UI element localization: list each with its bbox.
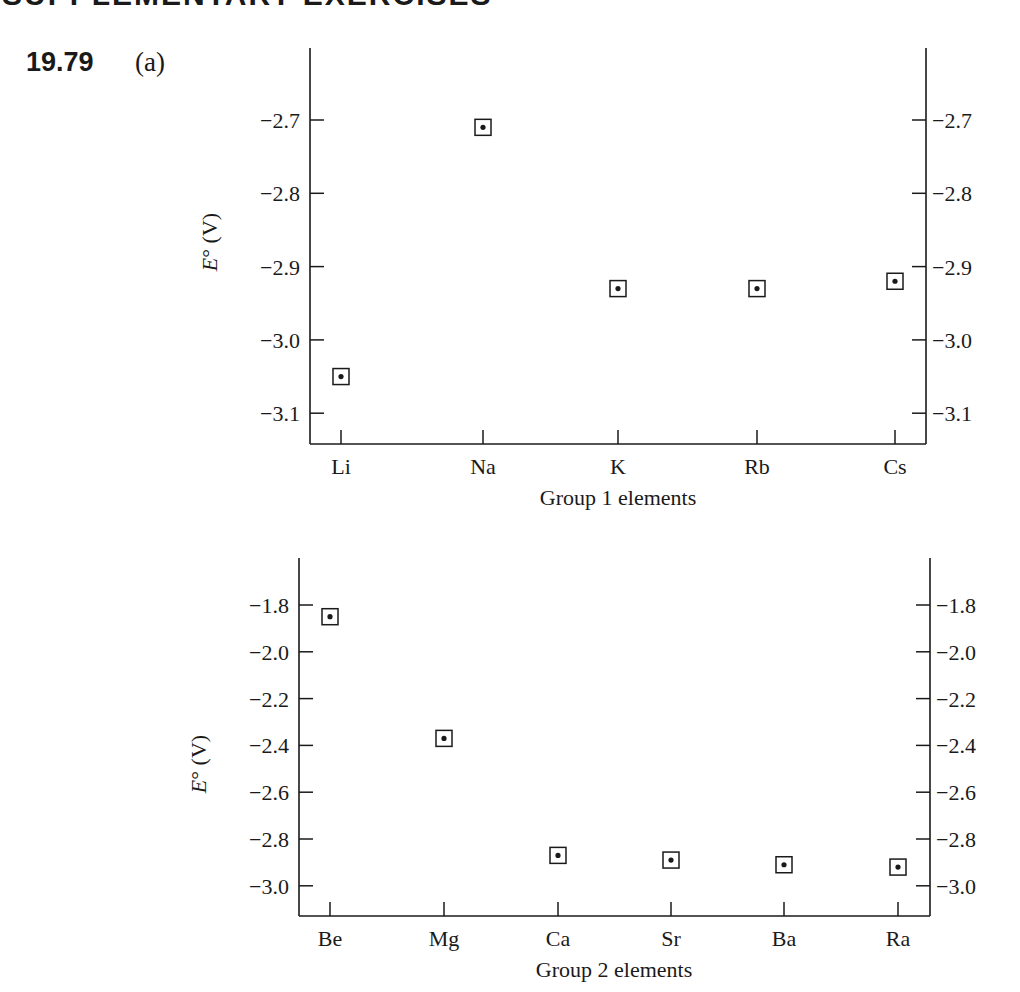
x-axis-label: Group 1 elements — [540, 485, 696, 510]
data-point-sr — [663, 852, 679, 868]
data-point-ba — [776, 857, 792, 873]
y-tick-label-left: −2.6 — [249, 780, 289, 805]
y-tick-label-left: −3.1 — [260, 401, 300, 426]
data-point-mg — [436, 730, 452, 746]
marker-dot-icon — [615, 286, 620, 291]
data-point-na — [475, 119, 491, 135]
data-point-cs — [887, 273, 903, 289]
y-tick-label-left: −3.0 — [260, 328, 300, 353]
y-tick-label-right: −2.9 — [932, 255, 972, 280]
marker-dot-icon — [668, 857, 673, 862]
y-tick-label-left: −2.2 — [249, 687, 289, 712]
y-tick-label-right: −3.1 — [932, 401, 972, 426]
x-tick-label: Na — [470, 454, 496, 479]
x-axis-label: Group 2 elements — [536, 957, 692, 982]
x-tick-label: Ba — [772, 926, 797, 951]
y-tick-label-right: −3.0 — [936, 874, 976, 899]
x-tick-label: Cs — [883, 454, 906, 479]
y-tick-label-left: −3.0 — [249, 874, 289, 899]
data-point-rb — [749, 281, 765, 297]
x-tick-label: Mg — [429, 926, 460, 951]
chart-group-1: −2.7−2.7−2.8−2.8−2.9−2.9−3.0−3.0−3.1−3.1… — [197, 48, 972, 510]
marker-dot-icon — [338, 374, 343, 379]
marker-dot-icon — [480, 125, 485, 130]
data-point-ca — [550, 847, 566, 863]
charts-canvas: −2.7−2.7−2.8−2.8−2.9−2.9−3.0−3.0−3.1−3.1… — [0, 0, 1020, 992]
x-tick-label: Sr — [661, 926, 681, 951]
x-tick-label: Ra — [886, 926, 911, 951]
y-tick-label-left: −2.7 — [260, 108, 300, 133]
y-axis-label: E° (V) — [197, 213, 222, 272]
data-point-li — [333, 369, 349, 385]
data-point-k — [610, 281, 626, 297]
y-tick-label-left: −2.8 — [249, 827, 289, 852]
marker-dot-icon — [441, 736, 446, 741]
data-point-ra — [890, 859, 906, 875]
y-tick-label-right: −2.0 — [936, 640, 976, 665]
y-tick-label-left: −2.9 — [260, 255, 300, 280]
y-tick-label-right: −3.0 — [932, 328, 972, 353]
y-tick-label-left: −2.8 — [260, 181, 300, 206]
y-tick-label-left: −2.0 — [249, 640, 289, 665]
marker-dot-icon — [781, 862, 786, 867]
marker-dot-icon — [754, 286, 759, 291]
x-tick-label: Ca — [546, 926, 571, 951]
x-tick-label: Li — [331, 454, 351, 479]
y-tick-label-left: −2.4 — [249, 733, 289, 758]
marker-dot-icon — [327, 614, 332, 619]
marker-dot-icon — [555, 853, 560, 858]
marker-dot-icon — [895, 864, 900, 869]
data-point-be — [322, 609, 338, 625]
x-tick-label: K — [610, 454, 626, 479]
marker-dot-icon — [892, 279, 897, 284]
y-tick-label-right: −2.7 — [932, 108, 972, 133]
y-tick-label-right: −2.8 — [932, 181, 972, 206]
y-tick-label-right: −2.2 — [936, 687, 976, 712]
x-tick-label: Be — [318, 926, 342, 951]
y-tick-label-right: −2.8 — [936, 827, 976, 852]
y-axis-label: E° (V) — [186, 735, 211, 794]
x-tick-label: Rb — [744, 454, 770, 479]
y-tick-label-right: −1.8 — [936, 593, 976, 618]
chart-group-2: −1.8−1.8−2.0−2.0−2.2−2.2−2.4−2.4−2.6−2.6… — [186, 558, 976, 982]
y-tick-label-right: −2.4 — [936, 733, 976, 758]
y-tick-label-right: −2.6 — [936, 780, 976, 805]
y-tick-label-left: −1.8 — [249, 593, 289, 618]
